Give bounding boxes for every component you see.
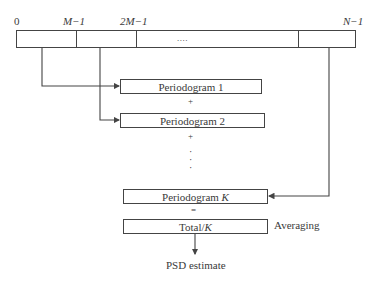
segment-divider-last	[298, 31, 299, 47]
plus-sign-1: +	[188, 96, 193, 106]
periodogram-2-label: Periodogram 2	[160, 115, 225, 127]
total-prefix: Total/	[179, 221, 205, 233]
plus-sign-2: +	[188, 131, 193, 141]
psd-estimate-label: PSD estimate	[166, 259, 226, 271]
periodogram-k-box: Periodogram K	[123, 189, 268, 204]
periodogram-k-var: K	[222, 191, 229, 203]
segment-divider-2	[136, 31, 137, 47]
segments-ellipsis: ....	[177, 33, 188, 43]
periodogram-2-box: Periodogram 2	[120, 113, 265, 128]
averaging-label: Averaging	[274, 219, 320, 231]
total-var: K	[205, 221, 212, 233]
total-over-k-box: Total/K	[123, 219, 268, 234]
equals-sign: =	[191, 205, 196, 215]
tick-label-n-minus-1: N−1	[343, 15, 363, 27]
periodogram-1-label: Periodogram 1	[158, 81, 223, 93]
tick-label-0: 0	[14, 15, 20, 27]
periodogram-k-prefix: Periodogram	[162, 191, 222, 203]
tick-label-2m-minus-1: 2M−1	[120, 15, 148, 27]
segment-divider-1	[76, 31, 77, 47]
continuation-dot-3: ·	[189, 162, 192, 173]
tick-label-m-minus-1: M−1	[63, 15, 85, 27]
signal-bar: ....	[16, 30, 356, 48]
periodogram-1-box: Periodogram 1	[120, 79, 262, 94]
